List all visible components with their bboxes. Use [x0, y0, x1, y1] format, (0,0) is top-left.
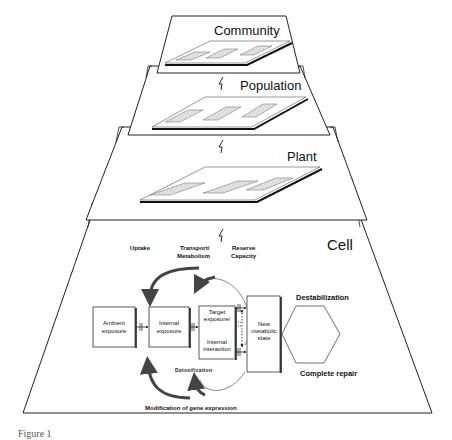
reserve-label-line1: Reserve [232, 245, 256, 251]
new-metabolic-state-box: New metabolic state [247, 296, 281, 373]
reserve-label-line2: Capacity [231, 253, 257, 259]
gene-expression-label: Modification of gene expression [145, 405, 237, 411]
svg-text:exposure: exposure [157, 328, 182, 334]
internal-exposure-box: Internal exposure [149, 307, 190, 348]
svg-text:Internal: Internal [159, 320, 179, 326]
svg-text:Ambient: Ambient [103, 320, 125, 326]
svg-text:exposure: exposure [102, 328, 127, 334]
detoxification-label: Detoxification [175, 367, 212, 373]
target-exposure-box: Target exposure/ Internal interaction [199, 306, 236, 360]
plant-label: Plant [287, 149, 317, 164]
uptake-label: Uptake [130, 245, 151, 251]
transport-label-line2: Metabolism [177, 253, 210, 259]
svg-text:exposure/: exposure/ [204, 316, 231, 322]
svg-text:Internal: Internal [207, 339, 227, 345]
destabilization-label: Destabilization [296, 293, 349, 302]
complete-repair-label: Complete repair [300, 369, 357, 378]
svg-text:state: state [257, 335, 271, 341]
cell-label: Cell [327, 236, 353, 253]
plant-level-panel [86, 127, 367, 220]
population-level-panel [128, 66, 330, 135]
population-label: Population [240, 78, 301, 93]
svg-text:Target: Target [209, 309, 226, 315]
transport-label-line1: Transport/ [180, 245, 210, 251]
figure-caption: Figure 1 [18, 428, 52, 439]
svg-text:metabolic: metabolic [251, 328, 277, 334]
ambient-exposure-box: Ambient exposure [93, 307, 136, 348]
community-label: Community [214, 23, 280, 38]
svg-text:New: New [258, 321, 271, 327]
svg-text:interaction: interaction [203, 346, 231, 352]
hierarchy-diagram: Community Population Plant Cell Uptake T… [0, 0, 452, 440]
